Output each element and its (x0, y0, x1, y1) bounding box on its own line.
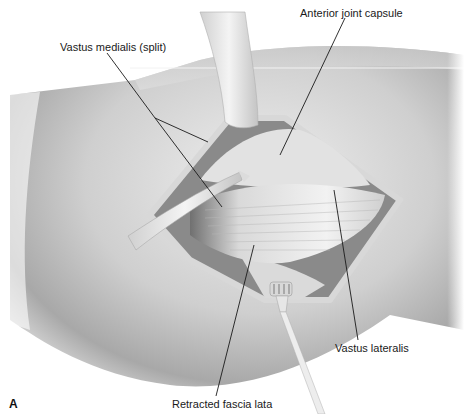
surgical-illustration: Vastus medialis (split) Anterior joint c… (0, 0, 464, 414)
label-vastus-lateralis: Vastus lateralis (335, 342, 409, 355)
label-vastus-medialis: Vastus medialis (split) (60, 41, 166, 54)
panel-letter: A (9, 397, 18, 411)
label-anterior-joint-capsule: Anterior joint capsule (300, 7, 403, 20)
label-retracted-fascia-lata: Retracted fascia lata (172, 398, 272, 411)
